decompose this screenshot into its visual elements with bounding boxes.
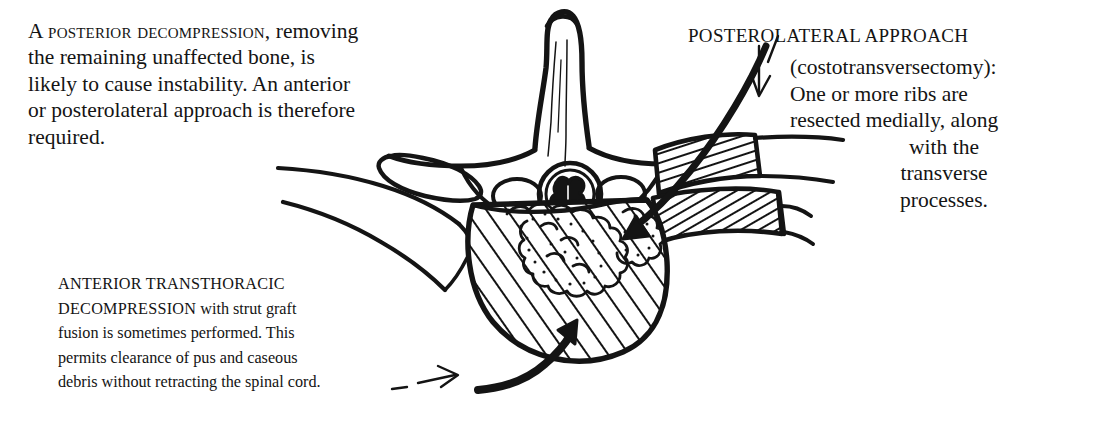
rib-left	[278, 168, 475, 290]
spinous-process	[535, 12, 589, 166]
posterior-lead-text: A posterior decompression,	[28, 19, 270, 43]
posterior-line-5: required.	[28, 125, 105, 149]
anterior-lead-line-2-caps: DECOMPRESSION	[58, 300, 196, 318]
arrow-anterior-pointer	[392, 366, 458, 389]
illustration-page: A posterior decompression, removing the …	[0, 0, 1117, 426]
anterior-lead-line-1: ANTERIOR TRANSTHORACIC	[58, 275, 285, 293]
rib-right-lateral	[755, 137, 843, 182]
transverse-process-right-hatched	[653, 189, 813, 244]
vertebra-cross-section-figure	[255, 0, 955, 426]
